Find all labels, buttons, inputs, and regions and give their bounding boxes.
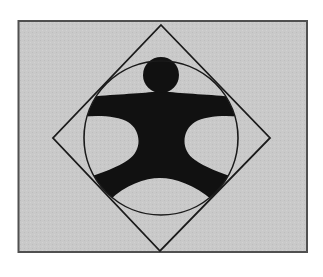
vitruvian-diagram [0,0,323,277]
